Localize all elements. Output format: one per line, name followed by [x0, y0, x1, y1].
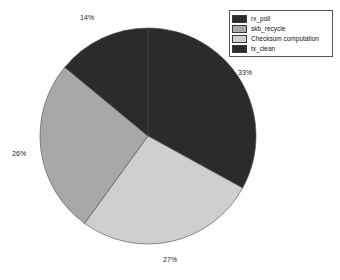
- pie-slices-group: [40, 28, 256, 244]
- pie-chart-figure: 14% 33% 27% 26% rx_pollskb_recycleChecks…: [0, 0, 340, 280]
- legend-item-label: Checksum computation: [251, 34, 319, 43]
- legend-item: skb_recycle: [232, 24, 330, 33]
- legend-item-label: rx_poll: [251, 14, 270, 23]
- slice-percent-label-checksum: 27%: [163, 256, 177, 263]
- legend-swatch-icon: [232, 35, 247, 43]
- slice-percent-label-tx-clean: 14%: [80, 14, 94, 21]
- legend-swatch-icon: [232, 15, 247, 23]
- legend-swatch-icon: [232, 45, 247, 53]
- legend-item-label: skb_recycle: [251, 24, 285, 33]
- legend-item: Checksum computation: [232, 34, 330, 43]
- legend-item: tx_clean: [232, 44, 330, 53]
- chart-legend: rx_pollskb_recycleChecksum computationtx…: [229, 10, 333, 57]
- slice-percent-label-skb-recycle: 26%: [12, 150, 26, 157]
- legend-item-label: tx_clean: [251, 44, 275, 53]
- legend-item: rx_poll: [232, 14, 330, 23]
- legend-swatch-icon: [232, 25, 247, 33]
- slice-percent-label-rx-poll: 33%: [238, 69, 252, 76]
